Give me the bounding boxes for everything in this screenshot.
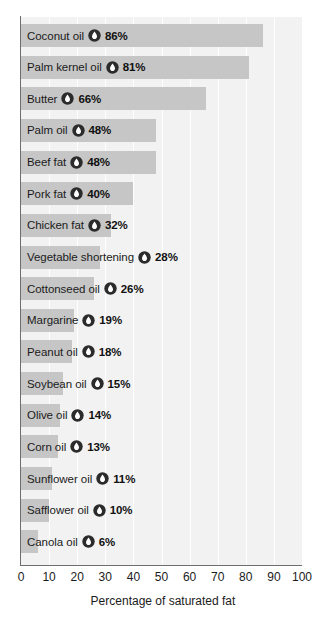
value-label: 86% — [105, 30, 128, 42]
category-label: Soybean oil — [27, 378, 87, 390]
bar-row: Chicken fat32% — [21, 214, 302, 237]
bar-row: Cottonseed oil26% — [21, 277, 302, 300]
droplet-icon — [91, 377, 104, 390]
x-axis-title: Percentage of saturated fat — [0, 594, 326, 608]
value-label: 15% — [108, 378, 131, 390]
value-label: 26% — [121, 283, 144, 295]
droplet-icon — [88, 29, 101, 42]
bar-series: Coconut oil86%Palm kernel oil81%Butter66… — [21, 17, 302, 565]
value-label: 48% — [89, 124, 112, 136]
value-label: 13% — [87, 441, 110, 453]
droplet-icon — [138, 251, 151, 264]
droplet-icon — [96, 472, 109, 485]
droplet-icon — [82, 535, 95, 548]
droplet-icon — [70, 156, 83, 169]
droplet-icon — [93, 504, 106, 517]
bar-label: Olive oil14% — [27, 404, 111, 427]
bar-row: Butter66% — [21, 87, 302, 110]
value-label: 6% — [99, 536, 115, 548]
category-label: Vegetable shortening — [27, 251, 134, 263]
category-label: Palm oil — [27, 124, 68, 136]
value-label: 19% — [99, 314, 122, 326]
value-label: 40% — [87, 188, 110, 200]
category-label: Cottonseed oil — [27, 283, 100, 295]
x-axis-line — [20, 565, 302, 566]
category-label: Peanut oil — [27, 346, 78, 358]
bar-row: Canola oil6% — [21, 530, 302, 553]
bar-row: Sunflower oil11% — [21, 467, 302, 490]
bar-label: Vegetable shortening28% — [27, 246, 178, 269]
y-axis-line — [20, 16, 21, 566]
category-label: Safflower oil — [27, 504, 89, 516]
droplet-icon — [82, 314, 95, 327]
bar-label: Pork fat40% — [27, 182, 110, 205]
category-label: Coconut oil — [27, 30, 84, 42]
category-label: Sunflower oil — [27, 473, 92, 485]
value-label: 14% — [88, 409, 111, 421]
category-label: Olive oil — [27, 409, 67, 421]
tick-label: 30 — [99, 570, 112, 584]
droplet-icon — [72, 124, 85, 137]
bar-label: Soybean oil15% — [27, 372, 130, 395]
bar-row: Margarine19% — [21, 309, 302, 332]
category-label: Corn oil — [27, 441, 66, 453]
droplet-icon — [82, 345, 95, 358]
value-label: 18% — [99, 346, 122, 358]
category-label: Beef fat — [27, 156, 66, 168]
bar-label: Peanut oil18% — [27, 340, 121, 363]
bar-label: Corn oil13% — [27, 435, 110, 458]
value-label: 32% — [105, 219, 128, 231]
bar-label: Palm oil48% — [27, 119, 111, 142]
bar-row: Safflower oil10% — [21, 499, 302, 522]
droplet-icon — [88, 219, 101, 232]
droplet-icon — [70, 187, 83, 200]
value-label: 48% — [87, 156, 110, 168]
bar-label: Sunflower oil11% — [27, 467, 135, 490]
bar-row: Peanut oil18% — [21, 340, 302, 363]
droplet-icon — [104, 282, 117, 295]
tick-label: 70 — [211, 570, 224, 584]
bar-row: Palm oil48% — [21, 119, 302, 142]
bar-label: Beef fat48% — [27, 151, 110, 174]
plot-area: Coconut oil86%Palm kernel oil81%Butter66… — [21, 17, 302, 565]
bar-row: Soybean oil15% — [21, 372, 302, 395]
droplet-icon — [61, 92, 74, 105]
tick-label: 0 — [18, 570, 25, 584]
bar-row: Vegetable shortening28% — [21, 246, 302, 269]
bar-label: Canola oil6% — [27, 530, 115, 553]
value-label: 10% — [110, 504, 133, 516]
tick-label: 50 — [155, 570, 168, 584]
category-label: Butter — [27, 93, 57, 105]
droplet-icon — [106, 61, 119, 74]
bar-row: Beef fat48% — [21, 151, 302, 174]
bar-label: Cottonseed oil26% — [27, 277, 144, 300]
category-label: Canola oil — [27, 536, 78, 548]
category-label: Margarine — [27, 314, 78, 326]
tick-label: 20 — [71, 570, 84, 584]
value-label: 81% — [123, 61, 146, 73]
bar-label: Margarine19% — [27, 309, 122, 332]
bar-label: Butter66% — [27, 87, 101, 110]
bar-row: Olive oil14% — [21, 404, 302, 427]
tick-label: 60 — [183, 570, 196, 584]
droplet-icon — [70, 440, 83, 453]
bar-label: Safflower oil10% — [27, 499, 133, 522]
tick-label: 90 — [267, 570, 280, 584]
bar-row: Pork fat40% — [21, 182, 302, 205]
category-label: Chicken fat — [27, 219, 84, 231]
bar-label: Coconut oil86% — [27, 24, 128, 47]
saturated-fat-bar-chart: Coconut oil86%Palm kernel oil81%Butter66… — [0, 0, 326, 621]
category-label: Palm kernel oil — [27, 61, 102, 73]
value-label: 11% — [113, 473, 135, 485]
value-label: 28% — [155, 251, 178, 263]
x-axis-tick-labels: 0102030405060708090100 — [0, 570, 326, 590]
bar-row: Coconut oil86% — [21, 24, 302, 47]
tick-label: 10 — [42, 570, 55, 584]
value-label: 66% — [78, 93, 101, 105]
bar-label: Palm kernel oil81% — [27, 56, 145, 79]
tick-label: 80 — [239, 570, 252, 584]
category-label: Pork fat — [27, 188, 66, 200]
tick-label: 40 — [127, 570, 140, 584]
bar-row: Corn oil13% — [21, 435, 302, 458]
bar-label: Chicken fat32% — [27, 214, 128, 237]
